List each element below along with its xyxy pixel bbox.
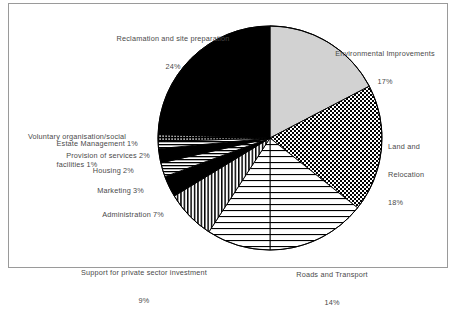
label-land-and-relocation: Land and Relocation 18% [388,124,454,225]
label-environmental-text: Environmental Improvements [320,49,450,58]
label-voluntary-text-2: facilities 1% [12,160,142,169]
label-roads-value: 14% [272,298,392,307]
label-voluntary-organisation: Voluntary organisation/social facilities… [12,114,142,188]
label-environmental-value: 17% [320,77,450,86]
label-land-text-2: Relocation [388,170,454,179]
label-roads-and-transport: Roads and Transport 14% [272,252,392,309]
label-reclamation-value: 24% [78,62,268,71]
label-environmental-improvements: Environmental Improvements 17% [320,31,450,105]
label-administration: Administration 7% [20,210,164,219]
label-land-text-1: Land and [388,142,454,151]
label-land-value: 18% [388,198,454,207]
label-reclamation-text: Reclamation and site preparation [78,34,268,43]
label-voluntary-text-1: Voluntary organisation/social [12,132,142,141]
label-support-private-sector: Support for private sector investment 9% [54,250,234,309]
label-support-value: 9% [54,296,234,305]
label-support-text: Support for private sector investment [54,268,234,277]
label-reclamation-site-preparation: Reclamation and site preparation 24% [78,16,268,90]
label-roads-text: Roads and Transport [272,270,392,279]
